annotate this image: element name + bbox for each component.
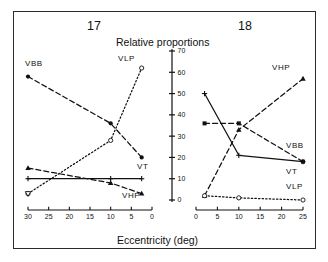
series-group-right — [202, 76, 306, 202]
svg-text:10: 10 — [178, 175, 186, 182]
series-line-vhp — [205, 79, 303, 196]
svg-text:60: 60 — [178, 69, 186, 76]
series-marker-vbb-0 — [203, 121, 207, 125]
series-marker-vbb-2 — [140, 155, 144, 159]
svg-text:20: 20 — [65, 213, 73, 220]
svg-text:20: 20 — [278, 213, 286, 220]
series-line-vt — [205, 94, 303, 162]
series-marker-vbb-0 — [26, 74, 30, 78]
series-marker-vhp-0 — [25, 165, 30, 170]
svg-text:30: 30 — [24, 213, 32, 220]
series-marker-vlp-0 — [202, 194, 206, 198]
svg-text:5: 5 — [129, 213, 133, 220]
svg-text:15: 15 — [86, 213, 94, 220]
svg-text:20: 20 — [178, 154, 186, 161]
svg-text:10: 10 — [107, 213, 115, 220]
series-marker-vbb-2 — [301, 160, 305, 164]
series-line-vbb — [28, 77, 142, 158]
series-marker-vhp-2 — [300, 76, 305, 81]
svg-text:50: 50 — [178, 90, 186, 97]
svg-text:10: 10 — [235, 213, 243, 220]
y-axis: 010203040506070 — [169, 47, 185, 203]
svg-text:0: 0 — [194, 213, 198, 220]
svg-text:25: 25 — [45, 213, 53, 220]
svg-text:5: 5 — [215, 213, 219, 220]
svg-text:70: 70 — [178, 47, 186, 54]
series-marker-vt-0 — [25, 176, 30, 181]
series-marker-vlp-2 — [140, 66, 144, 70]
x-axis-left: 302520151050 — [24, 207, 154, 220]
svg-text:0: 0 — [150, 213, 154, 220]
svg-text:25: 25 — [299, 213, 307, 220]
series-marker-vt-1 — [236, 153, 241, 158]
figure-container: 17 18 Relative proportions Eccentricity … — [0, 0, 328, 262]
series-line-vhp — [28, 168, 142, 194]
series-marker-vt-2 — [139, 176, 144, 181]
series-marker-vlp-1 — [109, 138, 113, 142]
plot-canvas: 010203040506070 302520151050 0510152025 — [0, 0, 328, 262]
series-group-left — [25, 66, 144, 196]
svg-text:0: 0 — [178, 196, 182, 203]
series-marker-vlp-1 — [237, 196, 241, 200]
series-marker-vt-0 — [202, 91, 207, 96]
svg-text:30: 30 — [178, 133, 186, 140]
series-marker-vbb-1 — [109, 121, 113, 125]
series-line-vbb — [205, 123, 303, 161]
series-marker-vlp-2 — [301, 198, 305, 202]
series-marker-vbb-1 — [237, 121, 241, 125]
x-axis-right: 0510152025 — [194, 207, 307, 220]
series-line-vlp — [205, 196, 303, 200]
svg-text:40: 40 — [178, 111, 186, 118]
svg-text:15: 15 — [256, 213, 264, 220]
